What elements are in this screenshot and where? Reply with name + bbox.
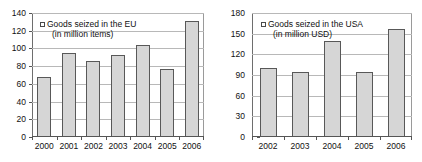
y-tick-label: 150 xyxy=(231,29,245,38)
y-tick-label: 120 xyxy=(231,50,245,59)
x-tick-label: 2003 xyxy=(284,141,316,155)
x-tick-label: 2002 xyxy=(252,141,284,155)
bar-2005 xyxy=(160,69,174,137)
bar-2002 xyxy=(260,68,277,137)
y-tick-label: 90 xyxy=(236,71,245,80)
x-tick-mark xyxy=(203,137,204,140)
x-tick-mark xyxy=(179,137,180,140)
y-tick-label: 100 xyxy=(12,44,26,53)
x-tick-label: 2001 xyxy=(57,141,82,155)
y-tick-label: 0 xyxy=(240,133,245,142)
x-tick-mark xyxy=(106,137,107,140)
legend-swatch-icon-usa xyxy=(261,22,266,27)
legend-label-usa-line2: (in million USD) xyxy=(268,29,363,39)
x-tick-mark xyxy=(155,137,156,140)
legend-swatch-icon-eu xyxy=(40,22,45,27)
bar-2000 xyxy=(37,77,51,137)
y-axis-usa: 0306090120150180 xyxy=(219,13,249,137)
x-tick-label: 2002 xyxy=(81,141,106,155)
x-tick-mark xyxy=(252,137,253,140)
x-tick-label: 2006 xyxy=(380,141,412,155)
bar-2006 xyxy=(185,21,199,137)
y-tick-label: 40 xyxy=(17,97,26,106)
y-tick-label: 0 xyxy=(21,133,26,142)
y-tick-label: 60 xyxy=(236,91,245,100)
legend-eu: Goods seized in the EU (in million items… xyxy=(40,19,136,39)
bar-slot xyxy=(179,13,204,137)
chart-usa: 0306090120150180 20022003200420052006 Go… xyxy=(211,0,422,162)
bar-2005 xyxy=(356,72,373,137)
y-tick-label: 80 xyxy=(17,62,26,71)
x-tick-label: 2005 xyxy=(155,141,180,155)
x-tick-label: 2003 xyxy=(106,141,131,155)
bar-2003 xyxy=(111,55,125,137)
y-tick-label: 20 xyxy=(17,115,26,124)
bar-2001 xyxy=(62,53,76,137)
x-tick-mark xyxy=(348,137,349,140)
bar-2002 xyxy=(86,61,100,137)
bar-slot xyxy=(155,13,180,137)
x-tick-mark xyxy=(284,137,285,140)
x-tick-label: 2000 xyxy=(32,141,57,155)
bar-2006 xyxy=(388,29,405,137)
y-tick-label: 30 xyxy=(236,112,245,121)
x-tick-mark xyxy=(316,137,317,140)
chart-eu: 020406080100120140 200020012002200320042… xyxy=(0,0,211,162)
x-tick-label: 2006 xyxy=(179,141,204,155)
y-axis-eu: 020406080100120140 xyxy=(0,13,30,137)
y-tick-label: 140 xyxy=(12,9,26,18)
y-tick-label: 120 xyxy=(12,26,26,35)
x-tick-mark xyxy=(130,137,131,140)
x-tick-mark xyxy=(81,137,82,140)
x-tick-mark xyxy=(380,137,381,140)
x-tick-label: 2005 xyxy=(348,141,380,155)
x-tick-label: 2004 xyxy=(316,141,348,155)
y-tick-label: 60 xyxy=(17,79,26,88)
bar-2003 xyxy=(292,72,309,137)
x-tick-label: 2004 xyxy=(130,141,155,155)
y-tick-label: 180 xyxy=(231,9,245,18)
bar-slot xyxy=(380,13,412,137)
legend-label-eu-line2: (in million items) xyxy=(47,29,136,39)
x-axis-labels-usa: 20022003200420052006 xyxy=(252,141,412,155)
dual-bar-chart-figure: 020406080100120140 200020012002200320042… xyxy=(0,0,422,162)
bar-2004 xyxy=(136,45,150,137)
bar-2004 xyxy=(324,41,341,137)
legend-usa: Goods seized in the USA (in million USD) xyxy=(261,19,363,39)
x-tick-mark xyxy=(57,137,58,140)
x-tick-mark xyxy=(411,137,412,140)
legend-label-usa-line1: Goods seized in the USA xyxy=(268,19,363,29)
x-axis-labels-eu: 2000200120022003200420052006 xyxy=(32,141,204,155)
legend-label-eu-line1: Goods seized in the EU xyxy=(47,19,136,29)
x-tick-mark xyxy=(32,137,33,140)
